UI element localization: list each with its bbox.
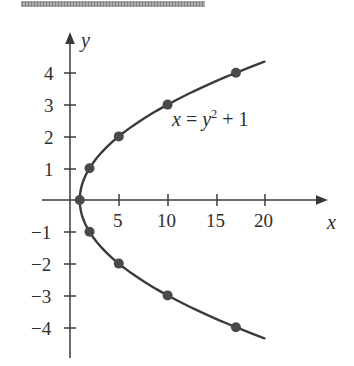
y-tick-label-minus-4: −4 xyxy=(31,319,51,338)
y-tick-label-minus-3: −3 xyxy=(31,287,51,306)
y-axis xyxy=(64,32,76,358)
parabola-plot xyxy=(0,0,354,366)
data-point-2-1 xyxy=(85,163,95,173)
x-axis xyxy=(42,194,328,206)
data-point-10--3 xyxy=(163,290,173,300)
data-point-17-4 xyxy=(231,68,241,78)
y-tick-label-minus-1: −1 xyxy=(31,223,51,242)
x-axis-arrow-icon xyxy=(316,195,328,205)
figure-container: 4 3 2 1 −1 −2 −3 −4 5 10 15 20 y x x = y… xyxy=(0,0,354,366)
y-tick-label-2: 2 xyxy=(44,128,54,147)
y-tick-label-1: 1 xyxy=(44,160,54,179)
x-tick-label-5: 5 xyxy=(113,211,123,230)
y-tick-label-4: 4 xyxy=(44,64,54,83)
equation-variable: y xyxy=(202,108,211,130)
equation-tail: + 1 xyxy=(217,108,248,130)
y-axis-label: y xyxy=(81,30,90,50)
equation-lhs: x xyxy=(172,108,181,130)
data-point-5-2 xyxy=(114,131,124,141)
x-tick-label-20: 20 xyxy=(254,211,273,230)
data-point-1-0 xyxy=(75,195,85,205)
equation-annotation: x = y2 + 1 xyxy=(172,108,249,129)
y-axis-arrow-icon xyxy=(65,32,75,44)
y-tick-label-minus-2: −2 xyxy=(31,255,51,274)
data-point-2--1 xyxy=(85,227,95,237)
data-point-17--4 xyxy=(231,322,241,332)
data-point-5--2 xyxy=(114,259,124,269)
x-tick-label-10: 10 xyxy=(157,211,176,230)
x-axis-label: x xyxy=(327,212,336,232)
equation-equals: = xyxy=(181,108,202,130)
y-tick-label-3: 3 xyxy=(44,96,54,115)
x-tick-label-15: 15 xyxy=(206,211,225,230)
